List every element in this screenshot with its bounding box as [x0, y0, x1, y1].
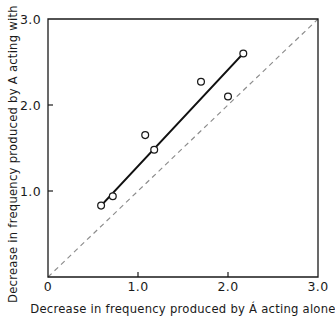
identity-reference-line-group: [48, 19, 318, 277]
data-point: [109, 193, 116, 200]
y-tick-label: 3.0: [20, 12, 41, 27]
data-point: [240, 50, 247, 57]
x-tick-label: 1.0: [127, 279, 148, 294]
fitted-line-group: [101, 53, 243, 205]
fitted-regression-line: [101, 53, 243, 205]
y-tick-label: 1.0: [20, 184, 41, 199]
scatter-plot-figure: 01.02.03.0 1.02.03.0 Decrease in frequen…: [0, 0, 335, 325]
y-axis-tick-marks: [48, 105, 53, 191]
data-point: [151, 146, 158, 153]
x-axis-tick-marks: [138, 272, 228, 277]
x-axis-title: Decrease in frequency produced by Á acti…: [30, 301, 335, 316]
chart-canvas: 01.02.03.0 1.02.03.0 Decrease in frequen…: [0, 0, 335, 325]
data-point: [198, 78, 205, 85]
data-point: [225, 93, 232, 100]
data-point: [98, 202, 105, 209]
y-axis-title: Decrease in frequency produced by A acti…: [6, 0, 20, 303]
x-tick-label: 3.0: [307, 279, 328, 294]
x-tick-label: 0: [44, 279, 52, 294]
data-point: [142, 132, 149, 139]
y-axis-tick-labels: 1.02.03.0: [20, 12, 41, 199]
identity-line: [48, 19, 318, 277]
y-tick-label: 2.0: [20, 98, 41, 113]
x-axis-tick-labels: 01.02.03.0: [44, 279, 329, 294]
x-tick-label: 2.0: [217, 279, 238, 294]
